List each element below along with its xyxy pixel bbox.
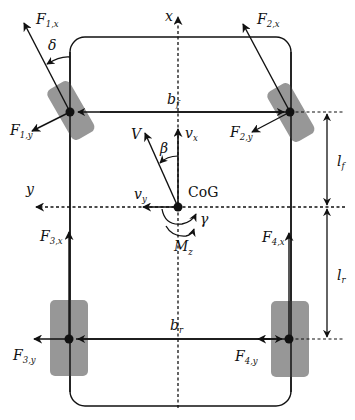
label-velocity-vy: vy (134, 186, 147, 204)
vehicle-dynamics-diagram: x y F1,x F2,x F1,y F2,y F3,x F4,x F3,y F… (0, 0, 355, 420)
label-yaw-rate: γ (200, 211, 209, 227)
label-sideslip-angle: β (159, 140, 168, 156)
label-cog: CoG (188, 184, 218, 200)
label-F3y: F3,y (12, 347, 36, 365)
label-F2y: F2,y (229, 124, 253, 142)
label-steering-angle: δ (48, 37, 56, 53)
label-rear-length: lr (337, 267, 346, 285)
label-rear-track: br (170, 317, 184, 335)
center-of-gravity-point (174, 203, 183, 212)
y-axis-label: y (25, 181, 35, 197)
label-front-track: bf (167, 91, 181, 109)
label-F3x: F3,x (39, 228, 63, 246)
sideslip-angle-arc (160, 156, 178, 163)
label-F2x: F2,x (256, 11, 280, 29)
label-F4y: F4,y (234, 348, 258, 366)
label-F1y: F1,y (9, 122, 33, 140)
label-velocity-V: V (131, 126, 143, 142)
label-F4x: F4,x (261, 229, 285, 247)
label-F1x: F1,x (35, 11, 59, 29)
force-F1x-arrow (24, 23, 70, 112)
x-axis-label: x (165, 8, 173, 24)
yaw-moment-arc (166, 226, 194, 236)
label-velocity-vx: vx (185, 125, 198, 143)
label-yaw-moment: Mz (173, 238, 193, 257)
vehicle-body-outline (70, 37, 291, 406)
steering-angle-arc (47, 57, 70, 64)
label-front-length: lf (337, 153, 346, 171)
